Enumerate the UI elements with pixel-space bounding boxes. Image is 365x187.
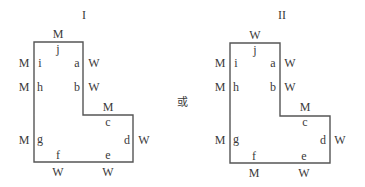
label-left-g: M <box>215 134 226 146</box>
figure-2-title: II <box>278 9 286 21</box>
label-a: a <box>270 57 275 69</box>
label-h: h <box>233 81 239 93</box>
label-top: M <box>53 28 64 40</box>
label-b: b <box>270 81 276 93</box>
conjunction-or: 或 <box>177 97 188 109</box>
label-left-i: M <box>19 57 30 69</box>
figure-2-outline <box>230 43 330 163</box>
label-j: j <box>56 43 59 55</box>
label-right-a: W <box>88 57 99 69</box>
label-f: f <box>252 150 256 162</box>
label-bottom-f: M <box>249 167 260 179</box>
label-d: d <box>320 134 326 146</box>
label-right-a: W <box>284 57 295 69</box>
label-i: i <box>38 57 41 69</box>
label-left-h: M <box>215 81 226 93</box>
label-left-h: M <box>19 81 30 93</box>
label-c: c <box>302 116 307 128</box>
label-e: e <box>301 150 306 162</box>
label-left-g: M <box>19 134 30 146</box>
label-b: b <box>74 81 80 93</box>
figure-1-outline <box>34 42 133 162</box>
label-step: M <box>300 101 311 113</box>
label-d: d <box>124 134 130 146</box>
label-top: W <box>249 29 260 41</box>
label-a: a <box>74 57 79 69</box>
label-right-b: W <box>88 81 99 93</box>
figure-1-title: I <box>82 9 86 21</box>
label-g: g <box>233 133 239 145</box>
label-f: f <box>56 149 60 161</box>
label-i: i <box>234 57 237 69</box>
label-bottom-f: W <box>52 166 63 178</box>
label-c: c <box>105 116 110 128</box>
label-bottom-e: W <box>102 166 113 178</box>
label-j: j <box>253 44 256 56</box>
label-right-b: W <box>284 81 295 93</box>
label-right-d: W <box>138 134 149 146</box>
label-e: e <box>105 149 110 161</box>
label-right-d: W <box>334 134 345 146</box>
label-left-i: M <box>215 57 226 69</box>
label-step: M <box>103 101 114 113</box>
label-h: h <box>37 81 43 93</box>
label-g: g <box>37 133 43 145</box>
label-bottom-e: W <box>298 167 309 179</box>
